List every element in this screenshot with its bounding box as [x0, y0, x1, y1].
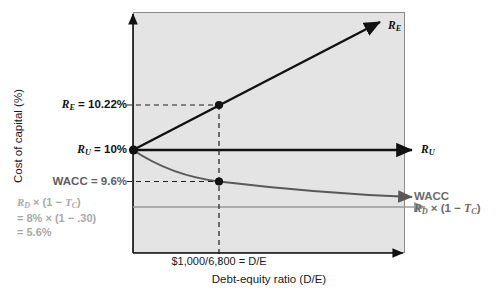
x-tick-label-de: $1,000/6,300 = D/E: [171, 255, 266, 267]
note-line-1: RD × (1 − TC): [17, 196, 96, 212]
y-value-label-wacc: WACC = 9.6%: [53, 175, 127, 187]
curve-label-rd-after-tax: RD × (1 − TC): [414, 202, 480, 216]
x-axis-title: Debt-equity ratio (D/E): [133, 273, 405, 285]
wacc-curve: [133, 150, 412, 197]
cost-of-capital-figure: Cost of capital (%) Debt-equity ratio (D…: [0, 0, 499, 293]
marker-origin-point: [129, 145, 138, 154]
note-line-3: = 5.6%: [17, 226, 96, 240]
after-tax-cost-of-debt-note: RD × (1 − TC) = 8% × (1 − .30) = 5.6%: [17, 196, 96, 239]
curve-label-wacc: WACC: [414, 190, 449, 202]
y-value-label-ru: RU = 10%: [77, 143, 127, 157]
curve-label-re: RE: [388, 19, 401, 33]
y-axis-title: Cost of capital (%): [12, 56, 24, 216]
y-value-label-re: RE = 10.22%: [62, 98, 127, 112]
marker-re-point: [215, 101, 223, 109]
re-line: [133, 22, 380, 150]
curve-label-ru: RU: [421, 143, 435, 157]
marker-wacc-point: [215, 177, 223, 185]
note-line-2: = 8% × (1 − .30): [17, 212, 96, 226]
